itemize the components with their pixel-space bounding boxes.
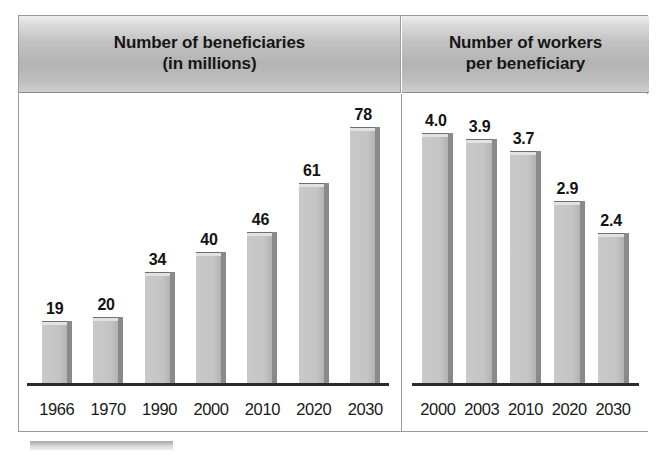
plot-area-beneficiaries: 19203440466178 1966197019902000201020202…	[19, 94, 401, 431]
bar-value-label: 61	[303, 162, 320, 180]
bar-slot: 4.0	[416, 100, 460, 383]
panel-title-beneficiaries: Number of beneficiaries (in millions)	[114, 33, 305, 74]
bar-slot: 20	[82, 100, 133, 383]
bar-value-label: 40	[200, 231, 217, 249]
bar-value-label: 78	[355, 106, 372, 124]
bar	[350, 127, 380, 383]
chart-panel-workers: 4.03.93.72.92.4 20002003201020202030	[402, 94, 649, 431]
bar-group-beneficiaries: 19203440466178	[19, 100, 401, 383]
bar-slot: 78	[340, 100, 391, 383]
bar	[93, 317, 123, 383]
bar-value-label: 3.9	[469, 118, 491, 136]
bar-value-label: 34	[149, 251, 166, 269]
bar-slot: 2.4	[591, 100, 635, 383]
bar	[42, 321, 72, 383]
x-tick-label: 2030	[591, 400, 635, 419]
x-tick-label: 1990	[134, 400, 185, 419]
bar-group-workers: 4.03.93.72.92.4	[402, 100, 649, 383]
bar-slot: 3.7	[504, 100, 548, 383]
bar-slot: 34	[134, 100, 185, 383]
x-axis-line-workers	[412, 383, 639, 386]
bar-slot: 61	[288, 100, 339, 383]
bar-value-label: 20	[97, 296, 114, 314]
x-tick-label: 2020	[288, 400, 339, 419]
bar	[422, 133, 453, 383]
panel-header-workers: Number of workers per beneficiary	[402, 16, 649, 93]
bar	[598, 233, 629, 383]
bar-value-label: 19	[46, 300, 63, 318]
bar	[196, 252, 226, 383]
scan-artifact-strip	[30, 441, 173, 450]
chart-panel-beneficiaries: 19203440466178 1966197019902000201020202…	[19, 94, 402, 431]
x-tick-label: 2020	[547, 400, 591, 419]
bar-slot: 19	[31, 100, 82, 383]
x-axis-tick-labels-workers: 20002003201020202030	[402, 400, 649, 419]
bar-value-label: 3.7	[513, 130, 535, 148]
plot-area-workers: 4.03.93.72.92.4 20002003201020202030	[402, 94, 649, 431]
bar	[299, 183, 329, 383]
x-axis-tick-labels-beneficiaries: 1966197019902000201020202030	[19, 400, 401, 419]
x-tick-label: 2003	[460, 400, 504, 419]
bar	[554, 201, 585, 383]
bar-value-label: 2.9	[556, 180, 578, 198]
panel-header-beneficiaries: Number of beneficiaries (in millions)	[19, 16, 401, 93]
bar-slot: 40	[185, 100, 236, 383]
bar-slot: 3.9	[460, 100, 504, 383]
bar	[466, 139, 497, 383]
figure-frame: Number of beneficiaries (in millions) Nu…	[18, 15, 648, 432]
bar-slot: 2.9	[547, 100, 591, 383]
x-tick-label: 2000	[185, 400, 236, 419]
x-tick-label: 2010	[237, 400, 288, 419]
bar-slot: 46	[237, 100, 288, 383]
bar-value-label: 46	[252, 211, 269, 229]
bar	[247, 232, 277, 383]
x-tick-label: 2010	[504, 400, 548, 419]
bar	[510, 151, 541, 383]
panel-title-workers: Number of workers per beneficiary	[449, 33, 602, 74]
x-tick-label: 1970	[82, 400, 133, 419]
bar-value-label: 2.4	[600, 212, 622, 230]
x-tick-label: 1966	[31, 400, 82, 419]
x-tick-label: 2030	[340, 400, 391, 419]
bar-value-label: 4.0	[425, 112, 447, 130]
bar	[145, 272, 175, 383]
x-axis-line-beneficiaries	[27, 383, 389, 386]
x-tick-label: 2000	[416, 400, 460, 419]
